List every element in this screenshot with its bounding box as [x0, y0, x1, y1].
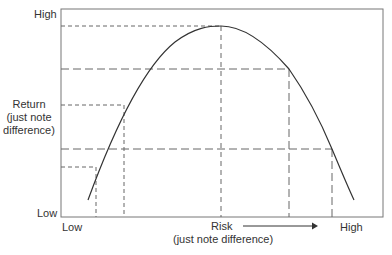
- reference-lines: [61, 26, 332, 217]
- plot-frame: [61, 9, 383, 217]
- x-tick-low: Low: [62, 221, 82, 234]
- y-axis-label: Return: [0, 98, 58, 111]
- x-tick-high: High: [340, 221, 363, 234]
- risk-return-diagram: [0, 0, 392, 255]
- y-tick-high: High: [34, 8, 57, 21]
- y-axis-label-sub1: (just note: [0, 111, 58, 124]
- x-axis-label-sub: (just note difference): [173, 233, 273, 246]
- y-axis-label-sub2: difference): [0, 124, 58, 137]
- x-axis-label: Risk: [211, 220, 232, 233]
- arrow-right-icon: [312, 223, 318, 230]
- y-tick-low: Low: [37, 207, 57, 220]
